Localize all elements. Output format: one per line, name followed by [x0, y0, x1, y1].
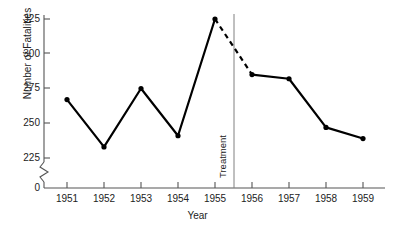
fatalities-line-chart: Number of Fatalities 325 300 275 250 225…	[0, 0, 395, 229]
data-point-1951	[64, 97, 69, 102]
data-point-1955	[212, 16, 217, 21]
plot-area	[0, 0, 395, 229]
data-point-1959	[360, 136, 365, 141]
y-axis-break-icon	[40, 162, 48, 182]
data-point-markers	[64, 16, 365, 149]
data-point-1956	[249, 72, 254, 77]
data-point-1957	[286, 76, 291, 81]
data-point-1952	[101, 144, 106, 149]
data-point-1953	[138, 86, 143, 91]
data-point-1954	[175, 133, 180, 138]
post-treatment-line	[252, 75, 363, 139]
data-point-1958	[323, 125, 328, 130]
pre-treatment-line	[67, 19, 215, 147]
